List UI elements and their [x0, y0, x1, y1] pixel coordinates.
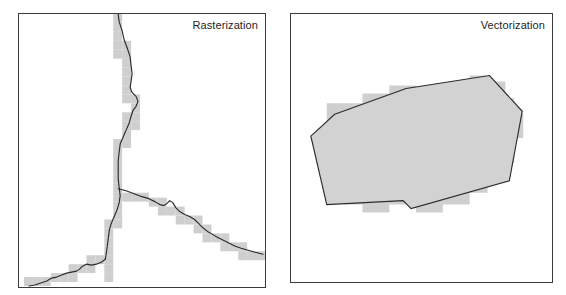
- panel-vectorization: Vectorization: [290, 13, 553, 283]
- panel-label-vectorization: Vectorization: [481, 19, 545, 32]
- raster-cells: [24, 14, 265, 286]
- panel-label-rasterization: Rasterization: [193, 19, 259, 32]
- panel-rasterization: Rasterization: [18, 13, 266, 288]
- figure-container: Rasterization Vectorization: [0, 0, 566, 295]
- vectorization-graphic: [291, 14, 552, 282]
- vector-polygon: [311, 76, 522, 209]
- rasterization-graphic: [19, 14, 265, 287]
